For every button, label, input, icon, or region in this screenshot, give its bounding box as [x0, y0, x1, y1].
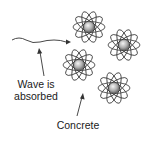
atom-top-icon	[73, 10, 105, 44]
wave-pointer-arrow	[40, 52, 44, 76]
wave-arrowhead-icon	[66, 40, 71, 45]
atom-right-icon	[108, 28, 140, 62]
wave-label: Wave is absorbed	[10, 78, 62, 102]
concrete-pointer-arrowhead-icon	[80, 93, 85, 100]
concrete-label: Concrete	[56, 119, 100, 131]
atom-middle-icon	[63, 48, 95, 82]
atom-bottom-right-icon	[98, 71, 130, 105]
concrete-pointer-arrow	[77, 97, 82, 116]
wave-label-line1: Wave is	[10, 78, 62, 90]
wave-line	[12, 38, 66, 43]
wave-label-line2: absorbed	[10, 90, 62, 102]
wave-pointer-arrowhead-icon	[37, 48, 42, 54]
